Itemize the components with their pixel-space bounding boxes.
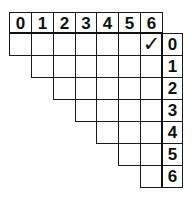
grid-cell-r3-c6[interactable] bbox=[140, 99, 163, 122]
grid-cell-r2-c2[interactable] bbox=[53, 77, 76, 100]
grid-cell-r5-c5[interactable] bbox=[118, 143, 141, 166]
grid-cell-r0-c6[interactable]: ✓ bbox=[140, 33, 163, 56]
grid-cell-r3-c3[interactable] bbox=[75, 99, 97, 122]
grid-cell-r2-c5[interactable] bbox=[118, 77, 141, 100]
grid-cell-r0-c4[interactable] bbox=[96, 33, 119, 56]
header-divider-line bbox=[9, 32, 163, 34]
column-header-5: 5 bbox=[118, 12, 141, 34]
column-header-0: 0 bbox=[9, 12, 32, 34]
column-header-2: 2 bbox=[53, 12, 76, 34]
grid-cell-r4-c6[interactable] bbox=[140, 121, 163, 144]
column-header-6: 6 bbox=[140, 12, 163, 34]
column-header-1: 1 bbox=[31, 12, 54, 34]
row-label-3: 3 bbox=[162, 99, 183, 122]
grid-cell-r1-c6[interactable] bbox=[140, 55, 163, 78]
label-divider-line bbox=[161, 32, 163, 188]
grid-cell-r2-c4[interactable] bbox=[96, 77, 119, 100]
grid-cell-r0-c1[interactable] bbox=[31, 33, 54, 56]
grid-cell-r1-c1[interactable] bbox=[31, 55, 54, 78]
checkmark-icon: ✓ bbox=[143, 34, 161, 55]
grid-cell-r2-c3[interactable] bbox=[75, 77, 97, 100]
grid-cell-r0-c5[interactable] bbox=[118, 33, 141, 56]
grid-cell-r0-c0[interactable] bbox=[9, 33, 32, 56]
row-label-5: 5 bbox=[162, 143, 183, 166]
grid-cell-r3-c5[interactable] bbox=[118, 99, 141, 122]
column-header-3: 3 bbox=[75, 12, 97, 34]
grid-cell-r1-c2[interactable] bbox=[53, 55, 76, 78]
grid-cell-r1-c4[interactable] bbox=[96, 55, 119, 78]
grid-cell-r0-c2[interactable] bbox=[53, 33, 76, 56]
grid-cell-r3-c4[interactable] bbox=[96, 99, 119, 122]
grid-cell-r2-c6[interactable] bbox=[140, 77, 163, 100]
grid-cell-r4-c5[interactable] bbox=[118, 121, 141, 144]
row-label-1: 1 bbox=[162, 55, 183, 78]
grid-cell-r1-c5[interactable] bbox=[118, 55, 141, 78]
row-label-6: 6 bbox=[162, 165, 183, 188]
grid-cell-r1-c3[interactable] bbox=[75, 55, 97, 78]
row-label-0: 0 bbox=[162, 33, 183, 56]
grid-cell-r5-c6[interactable] bbox=[140, 143, 163, 166]
grid-cell-r6-c6[interactable] bbox=[140, 165, 163, 188]
row-label-2: 2 bbox=[162, 77, 183, 100]
grid-cell-r4-c4[interactable] bbox=[96, 121, 119, 144]
grid-cell-r0-c3[interactable] bbox=[75, 33, 97, 56]
row-label-4: 4 bbox=[162, 121, 183, 144]
column-header-4: 4 bbox=[96, 12, 119, 34]
